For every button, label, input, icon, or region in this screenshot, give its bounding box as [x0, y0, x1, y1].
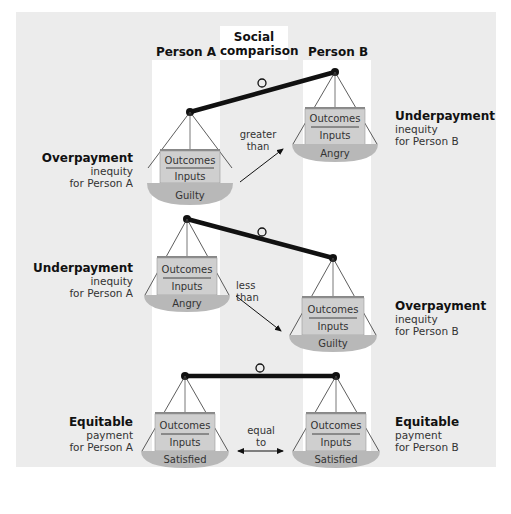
person-a-status-row-2: Underpayment inequity for Person A: [30, 262, 133, 300]
status-line2: inequity: [90, 275, 133, 287]
svg-text:Inputs: Inputs: [319, 130, 350, 141]
svg-text:Satisfied: Satisfied: [314, 454, 357, 465]
status-line3: for Person B: [395, 441, 459, 453]
status-title: Overpayment: [30, 152, 133, 165]
person-b-status-row-1: Underpayment inequity for Person B: [395, 110, 505, 148]
svg-text:Outcomes: Outcomes: [308, 304, 359, 315]
status-line2: inequity: [90, 165, 133, 177]
comparison-line1: equal: [232, 425, 290, 437]
svg-text:Inputs: Inputs: [174, 171, 205, 182]
svg-text:Inputs: Inputs: [317, 321, 348, 332]
svg-text:Guilty: Guilty: [175, 190, 205, 201]
comparison-line1: greater: [228, 129, 288, 141]
comparison-label-row-2: less than: [236, 280, 286, 304]
svg-text:Outcomes: Outcomes: [311, 420, 362, 431]
svg-text:Outcomes: Outcomes: [310, 113, 361, 124]
status-line3: for Person B: [395, 325, 459, 337]
person-b-status-row-3: Equitable payment for Person B: [395, 416, 505, 454]
comparison-line2: than: [228, 141, 288, 153]
scale-row-3: Outcomes Inputs Satisfied Outcomes Input…: [141, 364, 380, 468]
comparison-label-row-3: equal to: [232, 425, 290, 449]
status-line3: for Person A: [69, 177, 133, 189]
svg-text:Satisfied: Satisfied: [163, 454, 206, 465]
svg-text:Inputs: Inputs: [171, 281, 202, 292]
comparison-line1: less: [236, 280, 286, 292]
status-title: Overpayment: [395, 300, 505, 313]
status-line2: payment: [395, 429, 442, 441]
status-line3: for Person B: [395, 135, 459, 147]
status-title: Underpayment: [30, 262, 133, 275]
status-line3: for Person A: [69, 287, 133, 299]
status-title: Underpayment: [395, 110, 505, 123]
status-line3: for Person A: [69, 441, 133, 453]
status-title: Equitable: [30, 416, 133, 429]
svg-text:Angry: Angry: [172, 298, 202, 309]
status-line2: inequity: [395, 313, 438, 325]
status-line2: inequity: [395, 123, 438, 135]
status-line2: payment: [86, 429, 133, 441]
svg-text:Outcomes: Outcomes: [160, 420, 211, 431]
svg-text:Guilty: Guilty: [318, 338, 348, 349]
person-a-status-row-1: Overpayment inequity for Person A: [30, 152, 133, 190]
status-title: Equitable: [395, 416, 505, 429]
comparison-line2: than: [236, 292, 286, 304]
svg-text:Angry: Angry: [320, 148, 350, 159]
comparison-line2: to: [232, 437, 290, 449]
svg-text:Outcomes: Outcomes: [162, 264, 213, 275]
person-a-status-row-3: Equitable payment for Person A: [30, 416, 133, 454]
svg-text:Inputs: Inputs: [169, 437, 200, 448]
comparison-label-row-1: greater than: [228, 129, 288, 153]
svg-text:Inputs: Inputs: [320, 437, 351, 448]
svg-text:Outcomes: Outcomes: [165, 155, 216, 166]
person-b-status-row-2: Overpayment inequity for Person B: [395, 300, 505, 338]
